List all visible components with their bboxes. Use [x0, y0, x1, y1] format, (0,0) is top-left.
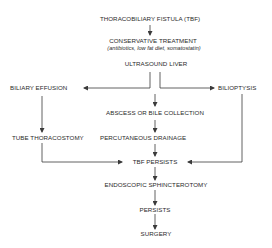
- arrow-thoracostomy-to-tbf-persists: [42, 143, 122, 162]
- arrow-bilioptysis-to-tbf-persists: [188, 94, 242, 162]
- node-endoscopic-sphincterotomy: ENDOSCOPIC SPHINCTEROTOMY: [105, 181, 208, 189]
- arrow-ultrasound-to-bilioptysis: [160, 72, 214, 88]
- node-conservative-treatment: CONSERVATIVE TREATMENT: [109, 37, 197, 45]
- conservative-treatment-note: (antibiotics, low fat diet, somatostatin…: [107, 45, 200, 52]
- node-thoracobiliary-fistula: THORACOBILIARY FISTULA (TBF): [100, 15, 200, 23]
- node-surgery: SURGERY: [141, 230, 172, 238]
- node-persists: PERSISTS: [139, 206, 170, 214]
- node-bilioptysis: BILIOPTYSIS: [218, 84, 256, 92]
- node-tube-thoracostomy: TUBE THORACOSTOMY: [12, 134, 84, 142]
- node-tbf-persists: TBF PERSISTS: [133, 158, 178, 166]
- node-ultrasound-liver: ULTRASOUND LIVER: [125, 60, 188, 68]
- arrow-ultrasound-to-biliary-effusion: [84, 72, 150, 88]
- node-biliary-effusion: BILIARY EFFUSION: [10, 84, 67, 92]
- thoracobiliary-fistula-flowchart: THORACOBILIARY FISTULA (TBF) CONSERVATIV…: [0, 0, 272, 248]
- node-abscess-or-bile-collection: ABSCESS OR BILE COLLECTION: [106, 109, 204, 117]
- node-percutaneous-drainage: PERCUTANEOUS DRAINAGE: [100, 134, 186, 142]
